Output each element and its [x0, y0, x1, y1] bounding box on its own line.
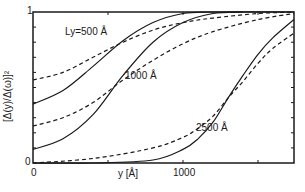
x-tick-1000: 1000 [173, 168, 195, 178]
annotation-ly-500: Ly=500 Å [65, 27, 107, 37]
curve-line [33, 12, 294, 80]
y-tick-0: 0 [25, 157, 31, 167]
y-tick-1: 1 [27, 6, 33, 16]
plot-area [0, 0, 305, 192]
curve-line [33, 33, 294, 163]
x-axis-label: y [Å] [118, 169, 138, 179]
x-tick-0: 0 [31, 168, 37, 178]
annotation-1000: 1000 Å [125, 71, 157, 81]
annotation-2500: 2500 Å [196, 123, 228, 133]
y-axis-label: [Δ(y)/Δ(ω)]² [2, 71, 13, 122]
curve-line [33, 20, 294, 164]
